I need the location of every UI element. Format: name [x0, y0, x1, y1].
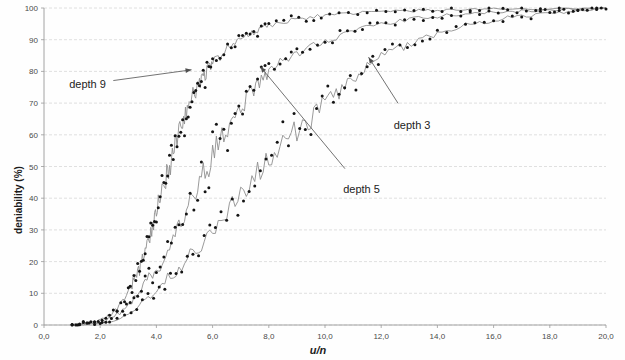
data-point: [230, 122, 233, 125]
data-point: [205, 61, 208, 64]
data-point: [230, 46, 233, 49]
data-point: [158, 285, 161, 288]
chart-background: [0, 0, 625, 360]
data-point: [455, 25, 458, 28]
annotation-label-depth-3: depth 3: [394, 119, 431, 131]
data-point: [267, 62, 270, 65]
data-point: [181, 118, 184, 121]
data-point: [82, 320, 85, 323]
data-point: [581, 8, 584, 11]
data-point: [215, 123, 218, 126]
data-point: [371, 55, 374, 58]
data-point: [376, 21, 379, 24]
data-point: [186, 255, 189, 258]
data-point: [525, 9, 528, 12]
data-point: [328, 13, 331, 16]
data-point: [282, 19, 285, 22]
data-point: [297, 16, 300, 19]
data-point: [377, 63, 380, 66]
data-point: [219, 57, 222, 60]
data-point: [338, 29, 341, 32]
data-point: [406, 46, 409, 49]
data-point: [273, 68, 276, 71]
data-point: [360, 72, 363, 75]
data-point: [264, 64, 267, 67]
data-point: [398, 43, 401, 46]
data-point: [234, 45, 237, 48]
data-point: [211, 130, 214, 133]
data-point: [215, 59, 218, 62]
data-point: [520, 7, 523, 10]
data-point: [234, 112, 237, 115]
data-point: [245, 32, 248, 35]
data-point: [226, 149, 229, 152]
data-point: [332, 101, 335, 104]
data-point: [375, 9, 378, 12]
data-point: [326, 84, 329, 87]
data-point: [204, 190, 207, 193]
data-point: [142, 259, 145, 262]
x-tick-label-14: 14,0: [430, 332, 446, 341]
chart-figure: 0102030405060708090100 0,02,04,06,08,010…: [0, 0, 625, 360]
annotation-label-depth-5: depth 5: [343, 183, 380, 195]
data-point: [431, 16, 434, 19]
data-point: [174, 226, 177, 229]
data-point: [539, 7, 542, 10]
y-tick-label-30: 30: [29, 226, 38, 235]
data-point: [305, 20, 308, 23]
data-point: [162, 256, 165, 259]
data-point: [164, 182, 167, 185]
data-point: [309, 133, 312, 136]
data-point: [459, 15, 462, 18]
data-point: [252, 30, 255, 33]
data-point: [187, 115, 190, 118]
data-point: [180, 270, 183, 273]
data-point: [222, 53, 225, 56]
data-point: [394, 23, 397, 26]
data-point: [236, 214, 239, 217]
data-point: [220, 210, 223, 213]
y-axis-title: deniability (%): [13, 166, 24, 234]
data-point: [214, 226, 217, 229]
data-point: [436, 29, 439, 32]
data-point: [309, 48, 312, 51]
data-point: [138, 270, 141, 273]
data-point: [459, 10, 462, 13]
data-point: [539, 10, 542, 13]
data-point: [403, 8, 406, 11]
x-tick-label-12: 12,0: [373, 332, 389, 341]
data-point: [428, 38, 431, 41]
data-point: [134, 279, 137, 282]
y-tick-label-70: 70: [29, 99, 38, 108]
data-point: [152, 297, 155, 300]
data-point: [159, 265, 162, 268]
data-point: [264, 157, 267, 160]
data-point: [384, 10, 387, 13]
data-point: [316, 44, 319, 47]
data-point: [211, 57, 214, 60]
data-point: [506, 8, 509, 11]
data-point: [119, 301, 122, 304]
data-point: [112, 309, 115, 312]
data-point: [208, 223, 211, 226]
data-point: [520, 16, 523, 19]
data-point: [169, 272, 172, 275]
data-point: [172, 158, 175, 161]
data-point: [204, 86, 207, 89]
data-point: [422, 8, 425, 11]
data-point: [605, 8, 608, 11]
data-point: [110, 317, 113, 320]
data-point: [331, 41, 334, 44]
data-point: [256, 78, 259, 81]
data-point: [270, 154, 273, 157]
data-point: [324, 41, 327, 44]
data-point: [202, 69, 205, 72]
data-point: [207, 186, 210, 189]
data-point: [155, 220, 158, 223]
data-point: [284, 57, 287, 60]
data-point: [391, 43, 394, 46]
x-tick-label-4: 4,0: [151, 332, 163, 341]
data-point: [361, 28, 364, 31]
data-point: [287, 144, 290, 147]
data-point: [157, 206, 160, 209]
